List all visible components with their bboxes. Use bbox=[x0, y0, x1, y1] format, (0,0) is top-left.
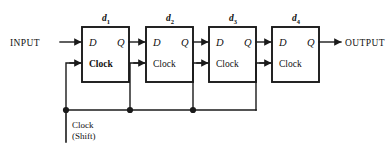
shift-register-diagram: INPUT OUTPUT D Q Clock D Q Clock D Q Clo… bbox=[0, 0, 389, 152]
junction-dot-d1 bbox=[63, 107, 69, 113]
pin-d-d2: D bbox=[152, 37, 161, 48]
pin-clock-d3: Clock bbox=[216, 59, 239, 69]
junction-dot-d3 bbox=[190, 107, 196, 113]
pin-clock-d2: Clock bbox=[153, 59, 176, 69]
input-label: INPUT bbox=[10, 38, 40, 48]
flipflop-box-d3[interactable] bbox=[209, 27, 256, 82]
diagram-canvas: INPUT OUTPUT D Q Clock D Q Clock D Q Clo… bbox=[0, 0, 389, 152]
pin-d-d1: D bbox=[88, 37, 97, 48]
clock-bus-label-line2: (Shift) bbox=[72, 131, 96, 141]
pin-q-d1: Q bbox=[117, 37, 125, 48]
pin-clock-d4: Clock bbox=[279, 59, 302, 69]
clock-feed-d4 bbox=[256, 63, 271, 110]
junction-dot-d2 bbox=[127, 107, 133, 113]
clock-bus-label-line1: Clock bbox=[72, 120, 94, 130]
stage-label-d1: d1 bbox=[102, 13, 110, 25]
stage-label-d4: d4 bbox=[292, 13, 301, 25]
pin-q-d3: Q bbox=[244, 37, 252, 48]
clock-feed-d2 bbox=[130, 63, 145, 110]
pin-q-d4: Q bbox=[307, 37, 315, 48]
flipflop-box-d4[interactable] bbox=[272, 27, 319, 82]
pin-clock-d1: Clock bbox=[89, 59, 113, 69]
output-label: OUTPUT bbox=[345, 38, 385, 48]
clock-feed-d1 bbox=[66, 63, 81, 110]
flipflop-box-d1[interactable] bbox=[82, 27, 129, 82]
pin-q-d2: Q bbox=[181, 37, 189, 48]
flipflop-box-d2[interactable] bbox=[146, 27, 193, 82]
pin-d-d3: D bbox=[215, 37, 224, 48]
stage-label-d3: d3 bbox=[229, 13, 238, 25]
clock-feed-d3 bbox=[193, 63, 208, 110]
pin-d-d4: D bbox=[278, 37, 287, 48]
stage-label-d2: d2 bbox=[166, 13, 174, 25]
